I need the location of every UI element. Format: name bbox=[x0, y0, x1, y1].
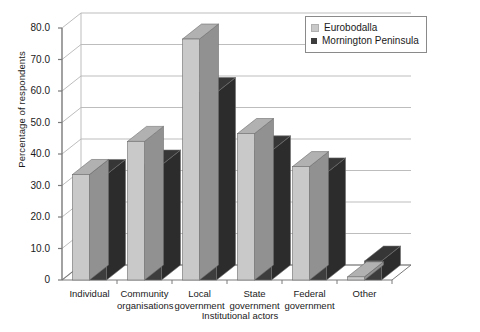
x-tick-label: Federal government bbox=[282, 288, 337, 311]
x-tick-label: Other bbox=[337, 288, 392, 300]
legend-item: Eurobodalla bbox=[311, 21, 419, 34]
x-tick-label: State government bbox=[227, 288, 282, 311]
x-tick-label: Individual bbox=[62, 288, 117, 300]
legend: Eurobodalla Mornington Peninsula bbox=[305, 16, 427, 53]
legend-label: Eurobodalla bbox=[324, 22, 377, 33]
x-tick-label: Local government bbox=[172, 288, 227, 311]
legend-swatch-icon bbox=[311, 24, 319, 32]
x-axis-title: Institutional actors bbox=[0, 310, 480, 321]
legend-label: Mornington Peninsula bbox=[322, 35, 419, 46]
chart-figure: Percentage of respondents 010.020.030.04… bbox=[0, 0, 480, 332]
legend-item: Mornington Peninsula bbox=[311, 34, 419, 47]
x-tick-label: Community organisations bbox=[117, 288, 172, 311]
legend-swatch-icon bbox=[311, 38, 317, 44]
bars-layer bbox=[73, 24, 401, 280]
